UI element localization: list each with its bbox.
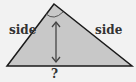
left-side-label: side — [9, 24, 36, 36]
triangle-diagram — [0, 0, 136, 82]
base-label: ? — [51, 68, 58, 80]
right-side-label: side — [95, 24, 122, 36]
